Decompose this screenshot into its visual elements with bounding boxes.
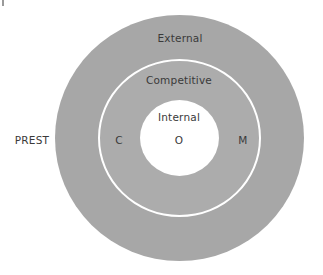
prest-label: PREST <box>15 134 49 146</box>
letter-o: O <box>175 134 183 146</box>
corner-mark <box>2 0 4 6</box>
competitive-label: Competitive <box>146 74 212 86</box>
external-label: External <box>157 32 202 44</box>
letter-c: C <box>115 134 123 146</box>
letter-m: M <box>238 134 247 146</box>
internal-label: Internal <box>158 111 200 123</box>
